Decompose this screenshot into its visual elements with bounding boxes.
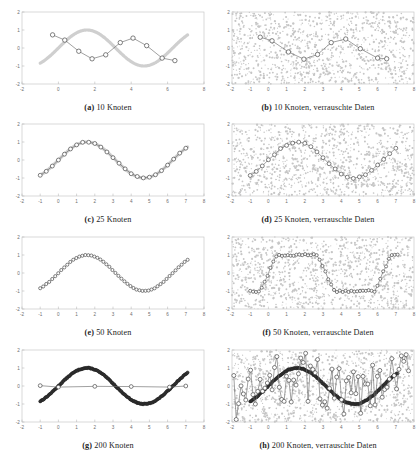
dense-knot-markers bbox=[39, 366, 189, 406]
plot-h-svg: -2-1012345678-2-1012 bbox=[218, 344, 418, 440]
x-tick-label: 1 bbox=[285, 87, 288, 92]
plot-c: -2-1012345678-2-1012 bbox=[8, 118, 208, 214]
y-tick-label: 0 bbox=[17, 384, 20, 389]
y-tick-label: 2 bbox=[17, 122, 20, 127]
plot-a-svg: -202468-2-1012 bbox=[8, 6, 208, 102]
x-tick-label: 4 bbox=[340, 199, 343, 204]
y-tick-label: 1 bbox=[227, 366, 230, 371]
y-tick-label: 1 bbox=[227, 253, 230, 258]
caption-a: (a) 10 Knoten bbox=[8, 103, 208, 112]
x-tick-label: 3 bbox=[112, 425, 115, 430]
y-tick-label: 1 bbox=[17, 140, 20, 145]
caption-e-label: (e) bbox=[85, 328, 94, 337]
caption-e: (e) 50 Knoten bbox=[8, 328, 208, 337]
x-tick-label: -2 bbox=[230, 425, 235, 430]
y-tick-label: 1 bbox=[17, 28, 20, 33]
y-tick-label: -2 bbox=[226, 82, 231, 87]
panel-g: -2-1012345678-2-1012 (g) 200 Knoten bbox=[8, 344, 208, 440]
y-tick-label: 2 bbox=[17, 235, 20, 240]
plot-g: -2-1012345678-2-1012 bbox=[8, 344, 208, 440]
x-tick-label: 2 bbox=[304, 87, 307, 92]
plot-frame bbox=[22, 124, 204, 196]
plot-f: -2-1012345678-2-1012 bbox=[218, 231, 418, 327]
x-tick-label: 5 bbox=[148, 199, 151, 204]
x-tick-label: 6 bbox=[166, 87, 169, 92]
x-tick-label: 2 bbox=[94, 312, 97, 317]
x-tick-label: 3 bbox=[322, 199, 325, 204]
x-tick-label: 5 bbox=[358, 87, 361, 92]
caption-b-text: 10 Knoten, verrauschte Daten bbox=[274, 103, 375, 112]
y-tick-label: 2 bbox=[17, 348, 20, 353]
plot-d-svg: -2-1012345678-2-1012 bbox=[218, 118, 418, 214]
caption-f: (f) 50 Knoten, verrauschte Daten bbox=[218, 328, 418, 337]
spline-fit-line bbox=[260, 37, 386, 59]
x-tick-label: 0 bbox=[267, 312, 270, 317]
spline-fit-markers bbox=[39, 253, 190, 292]
x-tick-label: -2 bbox=[230, 312, 235, 317]
x-tick-label: 1 bbox=[285, 312, 288, 317]
plot-e-svg: -2-1012345678-2-1012 bbox=[8, 231, 208, 327]
x-tick-label: 4 bbox=[130, 87, 133, 92]
x-tick-label: 5 bbox=[358, 425, 361, 430]
x-tick-label: 6 bbox=[376, 312, 379, 317]
plot-a: -202468-2-1012 bbox=[8, 6, 208, 102]
x-tick-label: 2 bbox=[94, 199, 97, 204]
x-tick-label: 3 bbox=[322, 425, 325, 430]
x-tick-label: 6 bbox=[376, 199, 379, 204]
caption-g-text: 200 Knoten bbox=[94, 441, 133, 450]
x-tick-label: -1 bbox=[248, 87, 253, 92]
x-tick-label: -2 bbox=[20, 312, 25, 317]
x-tick-label: 6 bbox=[166, 199, 169, 204]
caption-d: (d) 25 Knoten, verrauschte Daten bbox=[218, 215, 418, 224]
caption-e-text: 50 Knoten bbox=[96, 328, 131, 337]
y-tick-label: -1 bbox=[16, 176, 21, 181]
x-tick-label: -2 bbox=[20, 87, 25, 92]
x-tick-label: 4 bbox=[340, 87, 343, 92]
x-tick-label: 6 bbox=[166, 312, 169, 317]
caption-h-text: 200 Knoten, verrauschte Daten bbox=[272, 441, 377, 450]
plot-frame bbox=[22, 237, 204, 309]
y-tick-label: 0 bbox=[227, 46, 230, 51]
caption-g-label: (g) bbox=[82, 441, 92, 450]
x-tick-label: 3 bbox=[322, 312, 325, 317]
noise-scatter bbox=[231, 123, 415, 197]
y-tick-label: -1 bbox=[226, 64, 231, 69]
y-tick-label: 2 bbox=[17, 10, 20, 15]
x-tick-label: 0 bbox=[57, 199, 60, 204]
y-tick-label: 1 bbox=[227, 28, 230, 33]
plot-b-svg: -2-1012345678-2-1012 bbox=[218, 6, 418, 102]
panel-a: -202468-2-1012 (a) 10 Knoten bbox=[8, 6, 208, 102]
x-tick-label: 7 bbox=[185, 199, 188, 204]
x-tick-label: -2 bbox=[230, 199, 235, 204]
caption-h-label: (h) bbox=[259, 441, 269, 450]
plot-d: -2-1012345678-2-1012 bbox=[218, 118, 418, 214]
y-tick-label: 2 bbox=[227, 10, 230, 15]
x-tick-label: 2 bbox=[94, 425, 97, 430]
caption-a-label: (a) bbox=[84, 103, 94, 112]
y-tick-label: 2 bbox=[227, 235, 230, 240]
plot-c-svg: -2-1012345678-2-1012 bbox=[8, 118, 208, 214]
plot-e: -2-1012345678-2-1012 bbox=[8, 231, 208, 327]
x-tick-label: 4 bbox=[130, 425, 133, 430]
x-tick-label: 5 bbox=[148, 312, 151, 317]
x-tick-label: 7 bbox=[395, 425, 398, 430]
x-tick-label: 8 bbox=[413, 199, 416, 204]
x-tick-label: -2 bbox=[20, 425, 25, 430]
x-tick-label: -1 bbox=[38, 199, 43, 204]
x-tick-label: -1 bbox=[248, 312, 253, 317]
caption-f-label: (f) bbox=[262, 328, 270, 337]
x-tick-label: 3 bbox=[112, 312, 115, 317]
x-tick-label: -1 bbox=[38, 312, 43, 317]
x-tick-label: 0 bbox=[267, 87, 270, 92]
x-tick-label: 2 bbox=[304, 199, 307, 204]
x-tick-label: 3 bbox=[112, 199, 115, 204]
y-tick-label: 1 bbox=[17, 253, 20, 258]
y-tick-label: 1 bbox=[227, 140, 230, 145]
x-tick-label: 7 bbox=[395, 199, 398, 204]
x-tick-label: 6 bbox=[376, 87, 379, 92]
x-tick-label: 3 bbox=[322, 87, 325, 92]
x-tick-label: 8 bbox=[203, 425, 206, 430]
plot-g-svg: -2-1012345678-2-1012 bbox=[8, 344, 208, 440]
y-tick-label: 0 bbox=[227, 271, 230, 276]
caption-d-label: (d) bbox=[261, 215, 271, 224]
